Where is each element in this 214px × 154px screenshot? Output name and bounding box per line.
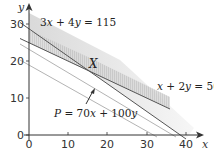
- y-tick-label-30: 30: [10, 18, 24, 31]
- label-objective-p: P = 70x + 100y: [53, 107, 138, 119]
- linear-programming-graph: 0 10 20 30 40 0 10 20 30 x y 3x + 4y = 1…: [0, 0, 214, 154]
- x-tick-label-20: 20: [100, 138, 114, 151]
- intersection-label-x: X: [88, 57, 98, 71]
- arrowhead-icon: [91, 88, 96, 94]
- x-tick-label-0: 0: [26, 138, 33, 151]
- x-tick-label-10: 10: [61, 138, 75, 151]
- label-x-2y-50: x + 2y = 50: [157, 80, 214, 92]
- y-tick-label-0: 0: [17, 129, 24, 142]
- y-axis-label: y: [17, 1, 25, 14]
- shaded-region-x-2y: [29, 30, 170, 109]
- x-tick-label-40: 40: [179, 138, 193, 151]
- x-tick-label-30: 30: [140, 138, 154, 151]
- y-tick-label-20: 20: [10, 55, 24, 68]
- y-tick-label-10: 10: [10, 92, 24, 105]
- label-3x-4y-115: 3x + 4y = 115: [40, 16, 116, 28]
- x-axis-label: x: [202, 138, 209, 151]
